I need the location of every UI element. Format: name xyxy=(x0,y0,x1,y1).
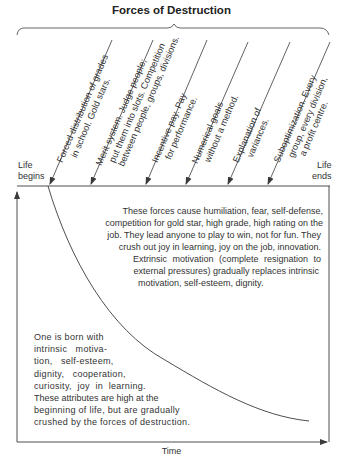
paragraph-line: motivation, self-esteem, dignity. xyxy=(80,277,335,289)
life-ends-line: Life xyxy=(312,160,332,171)
paragraph-line: job. They lead anyone to play to win, no… xyxy=(80,229,335,241)
paragraph-line: beginning of life, but are gradually xyxy=(34,404,190,416)
paragraph-line: crush out joy in learning, joy on the jo… xyxy=(80,241,335,253)
paragraph-line: intrinsic motiva- xyxy=(34,343,190,355)
brace xyxy=(17,24,329,35)
life-begins-line: Life xyxy=(18,160,45,171)
paragraph-line: These forces cause humiliation, fear, se… xyxy=(80,205,335,217)
paragraph-line: crushed by the forces of destruction. xyxy=(34,416,190,428)
paragraph-line: competition for gold star, high grade, h… xyxy=(80,217,335,229)
paragraph-line: dignity, cooperation, xyxy=(34,368,190,380)
paragraph-line: curiosity, joy in learning. xyxy=(34,380,190,392)
effects-paragraph: These forces cause humiliation, fear, se… xyxy=(80,205,335,289)
life-ends-line: ends xyxy=(312,171,332,182)
paragraph-line: external pressures) gradually replaces i… xyxy=(80,265,335,277)
life-begins-line: begins xyxy=(18,171,45,182)
paragraph-line: These attributes are high at the xyxy=(34,392,190,404)
life-begins-label: Life begins xyxy=(18,160,45,182)
paragraph-line: tion, self-esteem, xyxy=(34,355,190,367)
intrinsic-paragraph: One is born with intrinsic motiva- tion,… xyxy=(34,331,190,429)
life-ends-label: Life ends xyxy=(312,160,332,182)
paragraph-line: One is born with xyxy=(34,331,190,343)
x-axis-label: Time xyxy=(0,446,343,456)
paragraph-line: Extrinsic motivation (complete resignati… xyxy=(80,253,335,265)
